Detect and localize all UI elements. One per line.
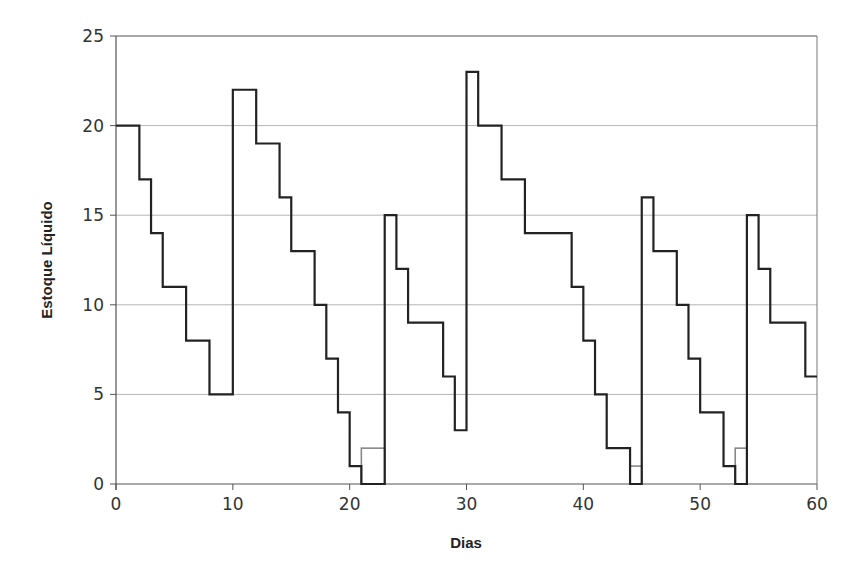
y-tick-label: 5 (93, 384, 104, 404)
x-tick-label: 50 (689, 494, 711, 514)
backorder-box (735, 448, 747, 484)
x-tick-label: 20 (339, 494, 361, 514)
x-tick-label: 10 (222, 494, 244, 514)
y-tick-label: 20 (82, 116, 104, 136)
x-axis-title: Dias (450, 534, 482, 551)
y-tick-label: 15 (82, 205, 104, 225)
inventory-step-chart: 0102030405060 0510152025 Dias Estoque Lí… (0, 0, 865, 582)
y-axis-title: Estoque Líquido (38, 201, 55, 319)
net-inventory-step-line (116, 72, 817, 484)
x-tick-label: 40 (573, 494, 595, 514)
y-tick-label: 0 (93, 474, 104, 494)
y-tick-label: 10 (82, 295, 104, 315)
y-tick-label: 25 (82, 26, 104, 46)
x-tick-label: 0 (111, 494, 122, 514)
backorder-box (361, 448, 384, 484)
backorder-boxes (361, 448, 747, 484)
x-axis-ticks: 0102030405060 (111, 484, 828, 514)
x-tick-label: 60 (806, 494, 828, 514)
x-tick-label: 30 (456, 494, 478, 514)
y-axis-ticks: 0510152025 (82, 26, 116, 494)
backorder-box (630, 466, 642, 484)
